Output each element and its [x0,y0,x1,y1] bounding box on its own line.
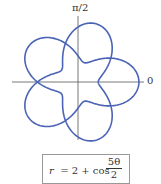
equation-lhs: r [49,165,54,176]
axis-label-pi-over-2: π/2 [72,2,88,13]
equation-fraction: 5θ 2 [106,156,122,181]
equation-text: = 2 + cos [60,165,109,176]
equation-box: r = 2 + cos 5θ 2 [42,154,130,184]
fraction-numerator: 5θ [106,156,122,169]
fraction-denominator: 2 [106,169,122,181]
equation-rhs: = 2 + cos [57,165,110,176]
axis-label-zero: 0 [147,75,153,86]
